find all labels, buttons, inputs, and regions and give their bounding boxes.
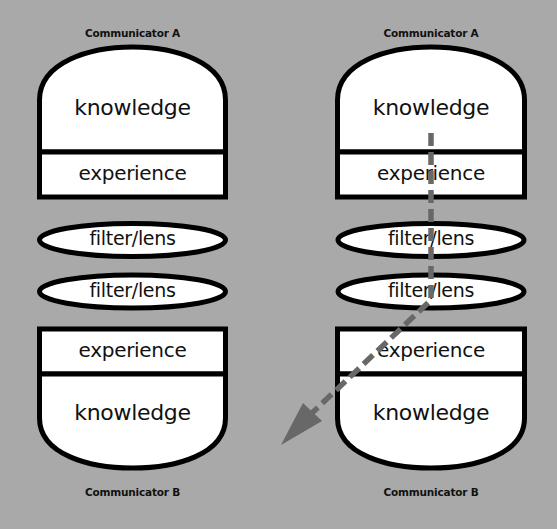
dashed-arrow-icon [0, 0, 557, 529]
communication-diagram: Communicator A knowledge experience filt… [0, 0, 557, 529]
